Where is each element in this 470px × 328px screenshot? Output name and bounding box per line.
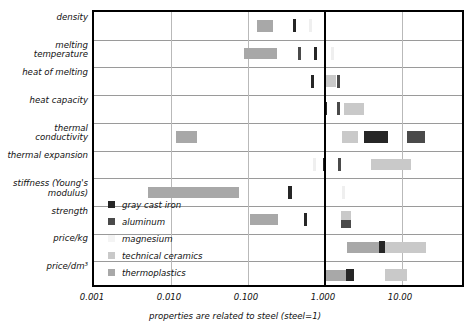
bar-aluminum-row2 <box>337 75 340 88</box>
bar-magnesium-row6 <box>342 186 345 199</box>
bar-aluminum-row1 <box>298 47 301 60</box>
x-tick-label-0.010: 0.010 <box>157 292 182 302</box>
legend-label: aluminum <box>122 217 165 227</box>
bar-gray-cast-iron-row4 <box>364 131 388 143</box>
bar-technical-ceramics-row5 <box>371 159 411 170</box>
bar-gray-cast-iron-row2 <box>311 75 314 88</box>
bar-magnesium-row5 <box>313 158 316 171</box>
y-axis-label-text: thermal conductivity <box>0 124 88 144</box>
bar-aluminum-row3 <box>337 102 340 115</box>
bar-technical-ceramics-row2 <box>326 75 336 87</box>
row-separator <box>94 151 462 152</box>
bar-technical-ceramics-row3 <box>344 103 364 115</box>
legend-label: magnesium <box>122 234 173 244</box>
legend-item-gray-cast-iron: gray cast iron <box>108 196 203 213</box>
y-axis-label-text: heat of melting <box>0 68 88 78</box>
bar-technical-ceramics-row8 <box>385 242 426 253</box>
y-axis-label-text: price/dm³ <box>0 262 88 272</box>
y-axis-label-text: stiffness (Young's modulus) <box>0 179 88 199</box>
bar-gray-cast-iron-row6 <box>288 186 292 199</box>
legend-swatch-icon <box>108 218 115 225</box>
row-separator <box>94 67 462 68</box>
legend-item-aluminum: aluminum <box>108 213 203 230</box>
row-separator <box>94 178 462 179</box>
y-axis-label-0: density <box>0 13 88 23</box>
bar-technical-ceramics-row9 <box>385 269 406 281</box>
bar-gray-cast-iron-row0 <box>293 19 296 32</box>
y-axis-label-9: price/dm³ <box>0 262 88 272</box>
bar-aluminum-row4 <box>407 131 426 143</box>
y-axis-label-text: density <box>0 13 88 23</box>
legend-label: gray cast iron <box>122 200 181 210</box>
legend-item-thermoplastics: thermoplastics <box>108 264 203 281</box>
bar-technical-ceramics-row7 <box>341 211 350 220</box>
bar-aluminum-row7 <box>341 220 350 229</box>
legend-swatch-icon <box>108 235 115 242</box>
legend-label: technical ceramics <box>122 251 203 261</box>
y-axis-label-4: thermal conductivity <box>0 124 88 144</box>
y-axis-label-2: heat of melting <box>0 68 88 78</box>
row-separator <box>94 123 462 124</box>
legend-item-technical-ceramics: technical ceramics <box>108 247 203 264</box>
bar-aluminum-row5 <box>338 158 341 171</box>
y-axis-label-text: price/kg <box>0 234 88 244</box>
bar-gray-cast-iron-row1 <box>314 47 317 60</box>
row-separator <box>94 95 462 96</box>
steel-reference-line <box>324 12 326 285</box>
y-axis-label-5: thermal expansion <box>0 151 88 161</box>
bar-gray-cast-iron-row8 <box>379 241 386 253</box>
legend-item-magnesium: magnesium <box>108 230 203 247</box>
x-tick-label-10.00: 10.00 <box>388 292 413 302</box>
bar-magnesium-row0 <box>309 19 312 32</box>
y-axis-label-8: price/kg <box>0 234 88 244</box>
materials-property-chart: densitymelting temperatureheat of meltin… <box>0 0 470 328</box>
legend-swatch-icon <box>108 269 115 276</box>
bar-thermoplastics-row7 <box>250 214 278 225</box>
x-tick-label-0.100: 0.100 <box>234 292 259 302</box>
bar-thermoplastics-row0 <box>257 20 273 32</box>
x-tick-label-1.000: 1.000 <box>311 292 336 302</box>
legend-swatch-icon <box>108 201 115 208</box>
bar-thermoplastics-row4 <box>176 131 197 143</box>
y-axis-label-text: melting temperature <box>0 41 88 61</box>
y-axis-label-7: strength <box>0 207 88 217</box>
legend-label: thermoplastics <box>122 268 186 278</box>
y-axis-label-text: heat capacity <box>0 96 88 106</box>
legend-swatch-icon <box>108 252 115 259</box>
bar-magnesium-row1 <box>331 47 334 60</box>
bar-thermoplastics-row1 <box>244 48 276 59</box>
bar-technical-ceramics-row4 <box>342 131 358 143</box>
y-axis-label-6: stiffness (Young's modulus) <box>0 179 88 199</box>
row-separator <box>94 40 462 41</box>
y-axis-label-1: melting temperature <box>0 41 88 61</box>
bar-gray-cast-iron-row7 <box>304 213 307 226</box>
y-axis-label-text: strength <box>0 207 88 217</box>
bar-gray-cast-iron-row9 <box>346 269 353 281</box>
x-tick-label-0.001: 0.001 <box>80 292 105 302</box>
y-axis-label-3: heat capacity <box>0 96 88 106</box>
y-axis-label-text: thermal expansion <box>0 151 88 161</box>
legend: gray cast ironaluminummagnesiumtechnical… <box>108 196 203 281</box>
x-axis-title: properties are related to steel (steel=1… <box>0 311 470 321</box>
